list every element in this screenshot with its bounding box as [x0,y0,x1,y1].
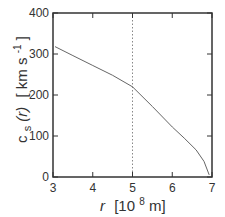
y-tick-label: 0 [42,170,49,184]
x-tick-label: 3 [50,181,57,195]
x-tick-label: 7 [209,181,216,195]
tick-labels: 345670100200300400 [29,6,216,195]
x-tick-label: 4 [89,181,96,195]
chart: 345670100200300400 r [10 8 m] c s (r) [ … [0,0,225,217]
y-tick-label: 400 [29,6,49,20]
x-tick-label: 6 [169,181,176,195]
y-tick-label: 200 [29,88,49,102]
y-tick-label: 300 [29,47,49,61]
plot-area [55,13,209,177]
x-tick-label: 5 [129,181,136,195]
